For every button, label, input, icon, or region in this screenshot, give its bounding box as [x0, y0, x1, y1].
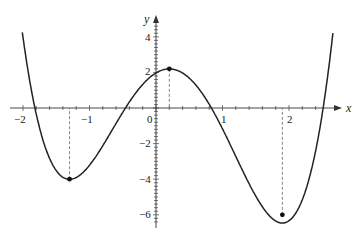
- y-tick-label: 2: [145, 65, 151, 77]
- critical-point-guides: [70, 69, 283, 215]
- function-graph: x y −2 −1 0 1 2 4 2 −2 −4 −6: [0, 0, 356, 236]
- y-tick-label: 4: [145, 31, 151, 43]
- critical-points: [67, 66, 285, 217]
- x-tick-label: 2: [287, 113, 293, 125]
- x-axis-arrow-icon: [334, 105, 342, 111]
- x-tick-label: 1: [221, 113, 227, 125]
- y-tick-label: −2: [139, 137, 151, 149]
- y-axis-arrow-icon: [153, 15, 159, 23]
- critical-point-marker: [167, 66, 172, 71]
- critical-point-marker: [67, 177, 72, 182]
- minor-ticks: [23, 26, 316, 222]
- x-tick-label: −2: [14, 113, 26, 125]
- function-curve: [22, 32, 333, 223]
- x-tick-labels: −2 −1 0 1 2: [14, 113, 293, 125]
- y-axis-label: y: [143, 12, 150, 26]
- x-tick-label: 0: [147, 113, 153, 125]
- x-axis-label: x: [345, 101, 352, 115]
- y-tick-labels: 4 2 −2 −4 −6: [139, 31, 151, 220]
- x-tick-label: −1: [81, 113, 93, 125]
- y-tick-label: −6: [139, 208, 151, 220]
- y-tick-label: −4: [139, 173, 151, 185]
- critical-point-marker: [280, 212, 285, 217]
